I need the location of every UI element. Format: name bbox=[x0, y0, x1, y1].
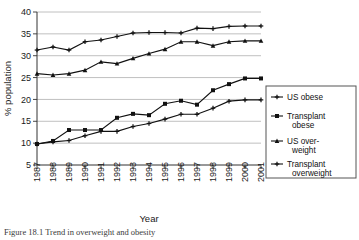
x-tick-label: 1994 bbox=[144, 162, 154, 182]
y-tick-label: 5 bbox=[26, 160, 31, 170]
x-tick-label: 1987 bbox=[32, 162, 42, 182]
x-tick-label: 1992 bbox=[112, 162, 122, 182]
legend-label: Transplant bbox=[287, 160, 326, 169]
x-tick-label: 1993 bbox=[128, 162, 138, 182]
chart-figure: 5101520253035401987198819891990199119921… bbox=[0, 0, 359, 240]
x-tick-label: 1991 bbox=[96, 162, 106, 182]
legend-label: US obese bbox=[287, 93, 323, 102]
y-tick-label: 40 bbox=[21, 7, 31, 17]
x-tick-label: 1990 bbox=[80, 162, 90, 182]
y-tick-label: 30 bbox=[21, 51, 31, 61]
y-tick-label: 35 bbox=[21, 29, 31, 39]
y-tick-label: 15 bbox=[21, 116, 31, 126]
series-us-overweight bbox=[35, 38, 264, 76]
gridlines bbox=[33, 12, 261, 165]
legend-label: Transplant bbox=[287, 112, 326, 121]
x-tick-label: 1996 bbox=[176, 162, 186, 182]
x-tick-label: 1999 bbox=[224, 162, 234, 182]
x-tick-label: 1995 bbox=[160, 162, 170, 182]
x-tick-label: 1989 bbox=[64, 162, 74, 182]
figure-caption: Figure 18.1 Trend in overweight and obes… bbox=[4, 227, 356, 237]
x-tick-label: 1998 bbox=[208, 162, 218, 182]
series-transplant-obese bbox=[35, 76, 263, 146]
y-tick-label: 25 bbox=[21, 73, 31, 83]
y-tick-label: 10 bbox=[21, 138, 31, 148]
x-tick-label: 1988 bbox=[48, 162, 58, 182]
legend: US obeseTransplantobeseUS over-weightTra… bbox=[266, 86, 356, 178]
legend-label-line2: overweight bbox=[292, 169, 332, 178]
y-axis-title: % population bbox=[2, 61, 13, 116]
x-tick-group: 1987198819891990199119921993199419951996… bbox=[32, 162, 266, 182]
line-chart: 5101520253035401987198819891990199119921… bbox=[0, 0, 359, 240]
y-tick-label: 20 bbox=[21, 95, 31, 105]
legend-label-line2: obese bbox=[292, 121, 315, 130]
x-tick-label: 2000 bbox=[240, 162, 250, 182]
series-us-obese bbox=[35, 98, 264, 147]
x-tick-label: 2001 bbox=[256, 162, 266, 182]
legend-label-line2: weight bbox=[291, 146, 316, 155]
series-transplant-overweight bbox=[35, 24, 264, 53]
legend-label: US over- bbox=[287, 137, 320, 146]
x-axis-title: Year bbox=[139, 213, 158, 224]
x-tick-label: 1997 bbox=[192, 162, 202, 182]
